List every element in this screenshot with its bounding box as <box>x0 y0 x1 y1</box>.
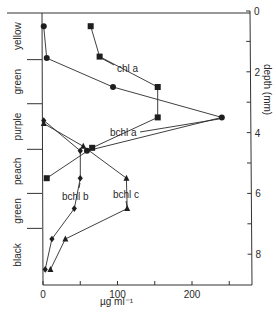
y-tick-label: 0 <box>254 6 260 17</box>
triangle-marker <box>62 236 68 242</box>
series-annotations: chl a bchl a bchl b bchl c <box>62 58 219 207</box>
depth-profile-chart: yellowgreenpurplepeachgreenblack 0100200… <box>0 0 276 319</box>
x-tick-label: 200 <box>184 289 201 300</box>
layer-labels: yellowgreenpurplepeachgreenblack <box>12 21 23 266</box>
diamond-marker <box>78 175 83 182</box>
circle-marker <box>219 114 225 120</box>
y-axis-line <box>250 11 252 285</box>
leader-chl-a <box>101 58 114 65</box>
label-bchl-c: bchl c <box>113 189 139 200</box>
layer-label-yellow: yellow <box>12 21 23 50</box>
circle-marker <box>41 23 47 29</box>
triangle-marker <box>123 175 129 181</box>
triangle-marker <box>47 266 53 272</box>
y-tick-label: 8 <box>256 249 262 260</box>
layer-label-purple: purple <box>12 112 23 140</box>
layer-dividers <box>27 60 42 229</box>
y-tick-label: 6 <box>255 188 261 199</box>
y-tick-label: 4 <box>255 128 261 139</box>
square-marker <box>88 23 94 29</box>
chart-canvas: yellowgreenpurplepeachgreenblack 0100200… <box>0 0 276 319</box>
square-marker <box>89 145 95 151</box>
leader-bchl-a <box>140 119 219 132</box>
layer-label-green: green <box>12 198 23 224</box>
x-axis-ticks: 0100200 <box>40 281 229 300</box>
label-bchl-a: bchl a <box>110 127 137 138</box>
triangle-marker <box>80 143 86 149</box>
left-axis-line <box>42 13 43 285</box>
layer-label-peach: peach <box>12 158 23 185</box>
label-chl-a: chl a <box>117 63 139 74</box>
label-bchl-b: bchl b <box>62 191 89 202</box>
circle-marker <box>44 55 50 61</box>
y-axis-label: depth (mm) <box>262 64 273 115</box>
x-tick-label: 0 <box>40 289 46 300</box>
square-marker <box>44 175 50 181</box>
layer-label-black: black <box>12 242 23 266</box>
layer-label-green: green <box>12 69 23 95</box>
y-tick-label: 2 <box>254 67 260 78</box>
y-axis-ticks: 02468 <box>246 6 262 260</box>
x-axis-label: µg ml⁻¹ <box>100 296 134 307</box>
circle-marker <box>110 84 116 90</box>
square-marker <box>155 84 161 90</box>
square-marker <box>155 114 161 120</box>
series-line-chl-a <box>47 26 158 178</box>
series-markers <box>41 23 225 273</box>
